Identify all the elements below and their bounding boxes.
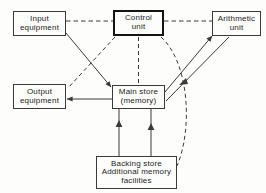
connector-control-to-output [68, 37, 115, 88]
node-control-unit-line-2: unit [132, 23, 146, 32]
connector-arithmetic-to-main-store [166, 37, 229, 101]
connector-main-store-to-arithmetic [165, 36, 212, 92]
node-main-store-line-2: (memory) [121, 97, 157, 106]
arrowhead-arithmetic-to-main-store [179, 78, 188, 85]
node-arithmetic-unit-line-2: unit [230, 24, 244, 33]
node-input-equipment-line-2: equipment [20, 24, 59, 33]
node-control-unit[interactable]: Control unit [113, 10, 164, 36]
arrowhead-backing-right-to-main-store [148, 123, 155, 130]
node-backing-store-line-3: facilities [121, 177, 151, 186]
arrowhead-backing-left-to-main-store [116, 120, 123, 127]
node-input-equipment[interactable]: Input equipment [13, 11, 66, 36]
node-arithmetic-unit[interactable]: Arithmetic unit [212, 11, 261, 36]
node-backing-store[interactable]: Backing store Additional memory faciliti… [96, 156, 177, 189]
connector-input-to-main-store [66, 33, 111, 87]
diagram-canvas: Input equipment Control unit Arithmetic … [0, 0, 266, 193]
node-output-equipment-line-2: equipment [20, 97, 59, 106]
node-output-equipment[interactable]: Output equipment [13, 84, 66, 109]
node-main-store[interactable]: Main store (memory) [112, 85, 165, 109]
